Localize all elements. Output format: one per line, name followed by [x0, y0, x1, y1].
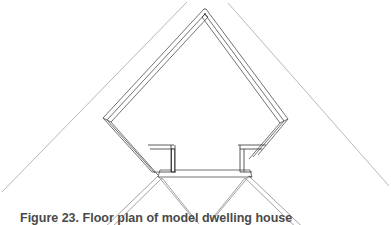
rafter-left-outer [103, 9, 204, 118]
junction-details [152, 172, 252, 177]
figure-caption-label: Figure 23. [20, 211, 79, 225]
outer-roof-slope-left [2, 2, 187, 192]
rafter-right-outer [206, 9, 288, 119]
outer-roof-slope-right [228, 3, 389, 186]
architectural-section-drawing [0, 0, 391, 225]
rafter-right-mid [204, 13, 284, 121]
figure-page: Figure 23. Floor plan of model dwelling … [0, 0, 391, 225]
knee-wall-left-face-b [107, 120, 155, 173]
knee-wall-right-face-b [253, 121, 284, 157]
figure-caption-text: Floor plan of model dwelling house [83, 211, 293, 225]
knee-wall-right-face-c [249, 123, 280, 159]
ridge-inner-v [202, 14, 208, 17]
knee-wall-left-face-a [103, 118, 152, 172]
floor-end-right [250, 170, 252, 177]
cabinet-right [238, 145, 266, 172]
rafter-right-inner [202, 17, 280, 123]
rafter-assembly [103, 9, 288, 123]
knee-wall-left [103, 118, 158, 175]
knee-wall-right-face-a [258, 119, 288, 155]
knee-wall-right [249, 119, 288, 159]
floor-end-left [158, 170, 160, 177]
rafter-left-inner [111, 17, 208, 122]
figure-caption: Figure 23. Floor plan of model dwelling … [20, 211, 380, 225]
knee-wall-left-face-c [111, 122, 158, 175]
rafter-left-mid [107, 13, 206, 120]
cabinet-left-door-leaf [172, 149, 175, 172]
